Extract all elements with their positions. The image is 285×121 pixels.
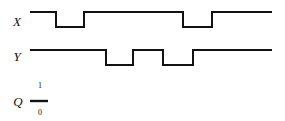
signal-label-y: Y [13, 49, 22, 64]
signal-row-x: X [12, 12, 272, 29]
level-label-q-high: 1 [38, 81, 42, 90]
signal-label-q: Q [13, 94, 23, 109]
timing-diagram: X Y Q 1 0 [0, 0, 285, 121]
signal-row-y: Y [13, 49, 272, 65]
waveform-canvas: X Y Q 1 0 [0, 0, 285, 121]
level-label-q-low: 0 [38, 108, 42, 117]
waveform-trace-x [30, 12, 272, 27]
waveform-trace-y [30, 50, 272, 65]
signal-row-q: Q 1 0 [13, 81, 48, 117]
signal-label-x: X [12, 14, 22, 29]
